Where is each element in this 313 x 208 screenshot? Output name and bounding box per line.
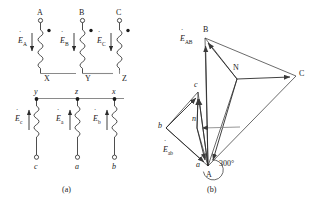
- emf-subscript-C: C: [102, 41, 106, 47]
- label-terminal-a: a: [75, 163, 79, 171]
- label-phasor-c: c: [194, 81, 198, 89]
- terminal-B: [80, 18, 84, 22]
- label-phasor-EAB: EAB: [180, 35, 193, 45]
- coil-c: [34, 106, 39, 137]
- label-terminal-A: A: [37, 9, 43, 17]
- label-phasor-C: C: [299, 70, 304, 78]
- figure-container: A B C X Y Z EA EB EC y z x c a b Ec Ea E…: [0, 0, 313, 208]
- phasor-arrow-to-n: [202, 127, 240, 128]
- label-terminal-x: x: [112, 88, 116, 96]
- polarity-dot-B: [89, 29, 92, 32]
- label-terminal-B: B: [79, 9, 84, 17]
- phasor-arrows: [166, 43, 290, 166]
- emf-symbol-a: E: [56, 114, 61, 123]
- terminal-C: [117, 18, 121, 22]
- label-phasor-n: n: [192, 115, 196, 123]
- phasor-line-CA: [208, 76, 296, 166]
- phasor-arrow-NB: [208, 43, 237, 79]
- emf-subscript-B: B: [65, 41, 69, 47]
- emf-symbol-B: E: [60, 36, 65, 45]
- figure-vector-graphics: [0, 0, 313, 208]
- label-terminal-C: C: [116, 9, 121, 17]
- label-emf-A: EA: [18, 37, 27, 47]
- phasor-arrow-bc: [166, 98, 196, 128]
- secondary-winding-group: [34, 99, 124, 160]
- polarity-dot-A: [47, 29, 50, 32]
- label-phasor-B: B: [203, 26, 208, 34]
- primary-polarity-dots: [47, 29, 129, 32]
- label-emf-B: EB: [60, 37, 69, 47]
- label-terminal-Z: Z: [122, 75, 127, 83]
- label-terminal-Y: Y: [85, 75, 91, 83]
- phasor-Eab-subscript: ab: [168, 150, 173, 156]
- label-phasor-a: a: [196, 161, 200, 169]
- label-emf-a: Ea: [56, 115, 63, 125]
- coil-B: [80, 30, 85, 68]
- emf-symbol-C: E: [97, 36, 102, 45]
- label-phasor-Eab: Eab: [163, 146, 173, 156]
- label-phasor-A: A: [206, 171, 212, 179]
- coil-b: [112, 106, 117, 137]
- label-terminal-y: y: [34, 88, 38, 96]
- emf-subscript-c: c: [20, 119, 22, 125]
- coil-a: [75, 106, 80, 137]
- phasor-line-NA: [208, 79, 237, 166]
- label-phasor-b: b: [158, 122, 162, 130]
- terminal-c: [34, 155, 38, 159]
- phasor-Eab-symbol: E: [163, 145, 168, 154]
- label-phasor-N: N: [233, 64, 239, 72]
- phasor-EAB-symbol: E: [180, 34, 185, 43]
- phasor-line-BC: [205, 38, 296, 76]
- primary-winding-group: [38, 18, 122, 73]
- terminal-b: [112, 155, 116, 159]
- label-terminal-c: c: [34, 163, 38, 171]
- phasor-lines: [166, 38, 296, 166]
- label-emf-c: Ec: [15, 115, 22, 125]
- label-emf-b: Eb: [93, 115, 101, 125]
- phasor-arrow-NA: [213, 79, 237, 160]
- emf-subscript-b: b: [98, 119, 101, 125]
- terminal-A: [38, 18, 42, 22]
- emf-symbol-b: E: [93, 114, 98, 123]
- polarity-dot-z: [76, 97, 80, 101]
- polarity-dot-x: [113, 97, 117, 101]
- emf-symbol-A: E: [18, 36, 23, 45]
- phasor-arrow-NC: [237, 77, 290, 79]
- label-terminal-X: X: [44, 75, 50, 83]
- polarity-dot-C: [126, 29, 129, 32]
- label-terminal-z: z: [75, 88, 78, 96]
- label-terminal-b: b: [112, 163, 116, 171]
- phasor-EAB-subscript: AB: [185, 39, 193, 45]
- coil-A: [38, 30, 43, 68]
- emf-symbol-c: E: [15, 114, 20, 123]
- label-emf-C: EC: [97, 37, 106, 47]
- caption-b: (b): [207, 186, 216, 194]
- terminal-a: [75, 155, 79, 159]
- emf-subscript-A: A: [23, 41, 27, 47]
- label-phase-displacement: 300°: [219, 160, 234, 168]
- phasor-arrow-nc: [197, 99, 198, 128]
- polarity-dot-y: [35, 97, 39, 101]
- coil-C: [117, 30, 122, 68]
- caption-a: (a): [62, 186, 71, 194]
- emf-subscript-a: a: [61, 119, 63, 125]
